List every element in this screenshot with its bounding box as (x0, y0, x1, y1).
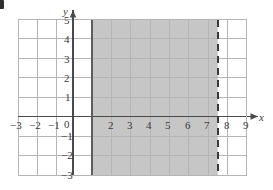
coordinate-plane (0, 0, 273, 190)
y-tick-label-3: 3 (64, 54, 70, 65)
y-tick-label-4: 4 (64, 34, 70, 45)
y-tick-label-2: 2 (64, 73, 70, 84)
x-axis-label: x (259, 112, 264, 123)
x-tick-label--2: −2 (29, 120, 41, 131)
x-tick-label-3: 3 (127, 120, 133, 131)
y-tick-label-1: 1 (65, 92, 71, 103)
x-tick-label--3: −3 (10, 120, 22, 131)
x-tick-label-6: 6 (185, 120, 191, 131)
y-tick-label-5: 5 (64, 15, 70, 26)
x-tick-label--1: −1 (48, 120, 60, 131)
graph-figure: y x −3 −2 −1 0 2 3 4 5 6 7 8 9 5 4 3 2 1… (0, 0, 273, 190)
x-tick-label-5: 5 (165, 120, 171, 131)
x-tick-label-2: 2 (108, 120, 114, 131)
y-tick-label--2: −2 (61, 150, 73, 161)
x-tick-label-7: 7 (204, 120, 210, 131)
x-tick-label-0: 0 (64, 119, 70, 130)
y-tick-label--3: −3 (61, 170, 73, 181)
x-axis-arrow-icon (251, 113, 259, 119)
x-tick-label-8: 8 (224, 120, 230, 131)
y-axis-arrow-icon (70, 10, 76, 18)
x-tick-label-4: 4 (146, 120, 152, 131)
x-tick-label-9: 9 (243, 120, 249, 131)
y-tick-label--1: −1 (61, 131, 73, 142)
